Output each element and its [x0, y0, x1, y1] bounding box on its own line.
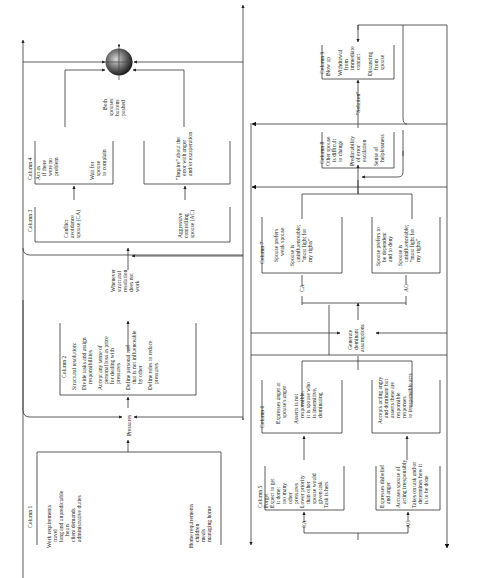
svg-text:contact: contact [355, 53, 361, 70]
svg-text:by other: by other [137, 365, 143, 384]
svg-text:pressures: pressures [115, 363, 121, 384]
column-2: Column 2 Structural resolution: Divide t… [61, 330, 159, 390]
whenever-label: Whenever structural resolution does not … [110, 269, 140, 292]
svg-text:responsibilities: responsibilities [87, 350, 93, 384]
column-1-title: Column 1 [27, 506, 33, 528]
svg-text:weak spouse: weak spouse [279, 227, 285, 256]
svg-text:Structural resolution:: Structural resolution: [71, 342, 77, 390]
svg-text:acting irresponsibly: acting irresponsibly [401, 460, 407, 504]
svg-text:spouse (CA): spouse (CA) [75, 210, 82, 238]
ca-label-col7: CA [299, 284, 305, 292]
svg-text:my rights": my rights" [307, 238, 313, 262]
buttons-pushed-sphere-icon [105, 44, 133, 80]
svg-text:Column 7: Column 7 [259, 242, 265, 264]
svg-text:my rights": my rights" [415, 238, 421, 262]
solution-label: "Solution" [355, 91, 361, 115]
svg-text:work: work [134, 280, 140, 292]
svg-text:to change: to change [337, 140, 343, 162]
svg-text:Task is hers: Task is hers [323, 482, 329, 508]
svg-text:managing home: managing home [206, 506, 212, 542]
column-8: Column 8 Other spouse is difficult to ch… [319, 134, 385, 166]
svg-text:Column 3: Column 3 [27, 210, 33, 232]
column-5: Column 5 Forget Expect to get it done: t… [257, 460, 429, 508]
column-7: Column 7 Spouse prefers weak spouse Spou… [259, 224, 421, 266]
ca-label-col5: CA [301, 520, 307, 528]
svg-text:Column 6: Column 6 [259, 406, 265, 428]
column-4: Column 4 Act as if there were no problem… [27, 132, 193, 180]
column-9: Column 9 Blow up Withdrawal from immedia… [319, 46, 385, 76]
svg-text:and/or exasperation: and/or exasperation [187, 132, 193, 176]
svg-text:and to deny: and to deny [387, 236, 393, 262]
svg-text:is to be done: is to be done [423, 475, 429, 504]
ac-label-col5: AC [405, 520, 411, 528]
svg-text:helplessness: helplessness [379, 134, 385, 162]
column-6: Column 6 Expresses anger at spouse's ang… [259, 373, 413, 428]
svg-text:and anger: and anger [385, 482, 391, 504]
ac-label-col7: AC [403, 284, 409, 292]
column-1: Column 1 Work requirements travel long a… [27, 490, 212, 548]
svg-text:dominating: dominating [317, 392, 323, 418]
svg-text:to irresponsible acts: to irresponsible acts [407, 373, 413, 418]
flow-diagram: Column 1 Work requirements travel long a… [0, 0, 477, 578]
svg-text:assumptions: assumptions [359, 324, 365, 352]
svg-text:spouse (AC): spouse (AC) [189, 210, 196, 238]
svg-text:Column 2: Column 2 [61, 356, 67, 378]
buttons-pushed-label: Both spouses' buttons pushed [102, 98, 126, 116]
svg-text:spouse: spouse [379, 54, 385, 70]
svg-text:escalation: escalation [361, 139, 367, 162]
svg-text:problem: problem [53, 157, 59, 176]
svg-text:Blow up: Blow up [325, 57, 331, 76]
svg-text:spouse's anger: spouse's anger [281, 386, 287, 418]
pressures-label: Pressures [126, 415, 132, 436]
generate-assumptions-label: Generate dominant assumptions [347, 324, 365, 352]
column-3: Column 3 Conflict avoidance spouse (CA) … [27, 210, 196, 238]
svg-text:to complain: to complain [101, 149, 107, 176]
svg-text:pressures: pressures [153, 363, 159, 384]
svg-text:pushed: pushed [120, 100, 126, 116]
svg-text:Column 4: Column 4 [27, 158, 33, 180]
svg-text:administrative duties: administrative duties [76, 495, 82, 542]
